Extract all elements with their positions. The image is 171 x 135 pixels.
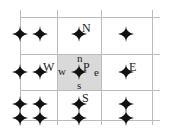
label-N: N bbox=[82, 22, 91, 34]
node-star-icon bbox=[32, 96, 48, 112]
label-n: n bbox=[77, 53, 83, 64]
label-W: W bbox=[43, 61, 54, 73]
label-P: P bbox=[83, 61, 90, 73]
node-star-icon bbox=[12, 64, 28, 80]
label-e: e bbox=[94, 67, 99, 78]
label-S: S bbox=[82, 92, 89, 104]
label-s: s bbox=[77, 80, 81, 91]
node-star-icon bbox=[118, 26, 134, 42]
node-star-icon bbox=[12, 26, 28, 42]
label-E: E bbox=[129, 61, 136, 73]
node-star-icon bbox=[118, 96, 134, 112]
node-star-icon bbox=[12, 110, 28, 126]
fv-grid-diagram: N W w n P e s E S bbox=[0, 0, 171, 135]
node-star-icon bbox=[32, 110, 48, 126]
node-star-icon bbox=[71, 110, 87, 126]
node-star-icon bbox=[12, 96, 28, 112]
node-star-icon bbox=[118, 110, 134, 126]
node-star-icon bbox=[32, 26, 48, 42]
label-w: w bbox=[58, 66, 66, 77]
